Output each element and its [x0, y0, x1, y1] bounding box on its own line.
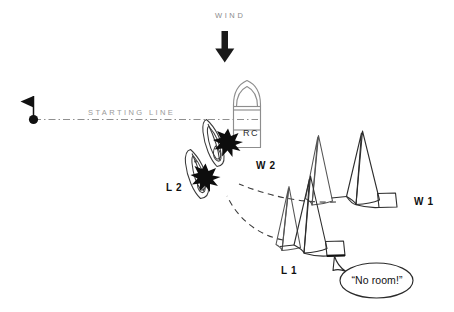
- sailing-diagram: WIND STARTING LINE RC W 1 L 1 W 2 L 2 “N…: [0, 0, 454, 312]
- boat-L1-transom-accent: [327, 255, 345, 256]
- boat-L2-crew-dot: [194, 160, 196, 162]
- boat-L1-jib: [294, 179, 310, 253]
- track-L1: [227, 196, 283, 240]
- wind-arrow-icon: [215, 31, 234, 63]
- boat-label-L2: L 2: [166, 182, 182, 193]
- rc-boat-label: RC: [243, 128, 259, 138]
- boat-L1-ghost-mainsail: [282, 187, 301, 251]
- speech-bubble-text: “No room!”: [345, 274, 409, 286]
- boat-W1: [306, 131, 398, 208]
- boat-label-L1: L 1: [281, 265, 297, 276]
- boat-W1-jib-foot: [347, 197, 357, 205]
- track-lines: [227, 184, 336, 240]
- boat-W1-hull-foot: [356, 205, 379, 208]
- rc-boat-deck-arc: [237, 87, 258, 107]
- boat-W1-bow-tip: [332, 197, 347, 199]
- boat-W1-ghost-jib: [306, 137, 318, 205]
- boat-W1-ghost: [306, 136, 333, 206]
- boat-L1: [276, 176, 345, 256]
- speech-bubble-tail: [333, 256, 346, 272]
- boat-L1-ghost: [276, 187, 301, 251]
- boat-label-W2: W 2: [256, 160, 276, 171]
- wind-label: WIND: [215, 11, 245, 20]
- boat-L1-hull: [326, 241, 346, 256]
- diagram-canvas: [0, 0, 454, 312]
- boat-W1-jib: [347, 133, 362, 205]
- boat-L1-hull-foot: [304, 253, 327, 256]
- boat-W1-hull: [378, 193, 398, 208]
- collision-starburst-W2-RC: [213, 129, 243, 158]
- pin-buoy: [21, 96, 39, 124]
- starting-line-label: STARTING LINE: [88, 108, 175, 117]
- pin-flag-icon: [21, 96, 34, 108]
- boat-label-W1: W 1: [414, 196, 434, 207]
- pin-buoy-ball: [29, 115, 38, 124]
